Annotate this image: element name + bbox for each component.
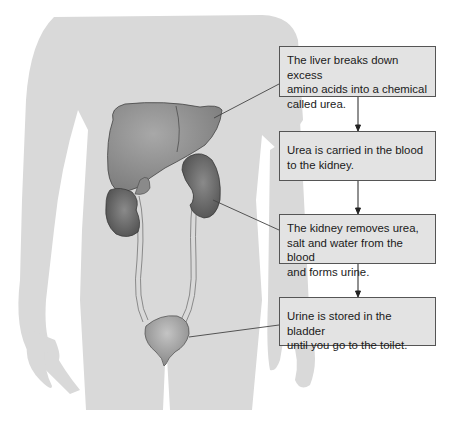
box-text-line: and forms urine. (287, 265, 429, 280)
box-text-line: salt and water from the blood (287, 236, 429, 265)
step-box-bladder: Urine is stored in the bladder until you… (279, 297, 436, 346)
box-text-line: The kidney removes urea, (287, 221, 429, 236)
step-box-liver: The liver breaks down excess amino acids… (279, 46, 436, 97)
box-text-line: Urine is stored in the bladder (287, 309, 429, 338)
box-text-line: until you go to the toilet. (287, 338, 429, 353)
box-text-line: amino acids into a chemical (287, 82, 429, 97)
box-text-line: Urea is carried in the blood (287, 143, 429, 158)
step-box-kidney: The kidney removes urea, salt and water … (279, 214, 436, 264)
box-text-line: called urea. (287, 97, 429, 112)
box-text-line: to the kidney. (287, 158, 429, 173)
step-box-blood: Urea is carried in the blood to the kidn… (279, 131, 436, 181)
box-text-line: The liver breaks down excess (287, 53, 429, 82)
